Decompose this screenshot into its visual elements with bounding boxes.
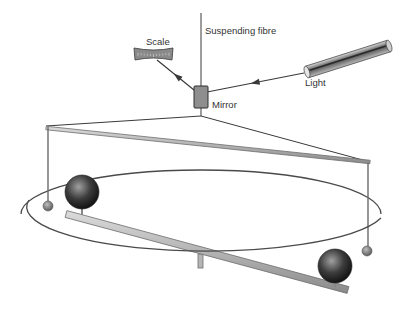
label-light: Light	[305, 78, 326, 88]
support-post	[198, 254, 203, 268]
large-mass-bar	[65, 211, 349, 294]
large-mass-left	[65, 175, 99, 209]
label-scale: Scale	[146, 37, 170, 47]
label-mirror: Mirror	[212, 100, 237, 110]
small-mass-right	[362, 246, 372, 256]
torsion-balance-diagram	[0, 0, 403, 311]
hanger-wire-left	[46, 116, 201, 126]
light-source	[303, 40, 393, 79]
mirror	[194, 86, 208, 108]
large-mass-right	[318, 249, 352, 283]
small-mass-left	[43, 201, 53, 211]
torsion-beam	[46, 126, 370, 163]
label-suspending-fibre: Suspending fibre	[205, 26, 276, 36]
